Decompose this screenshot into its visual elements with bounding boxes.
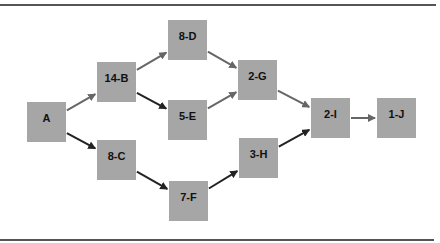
edge-g-i-arrow [278, 91, 309, 107]
edges-layer [0, 0, 440, 243]
edge-b-d-arrow [137, 53, 166, 70]
node-label: 14-B [97, 72, 136, 84]
edge-f-h-arrow [209, 171, 237, 188]
node-label: 8-C [97, 150, 136, 162]
node-label: 3-H [239, 148, 278, 160]
node-d: 8-D [168, 20, 207, 60]
node-label: 2-G [238, 70, 277, 82]
node-b: 14-B [97, 62, 136, 102]
node-label: 8-D [168, 30, 207, 42]
node-label: 7-F [169, 191, 208, 203]
edge-c-f-arrow [137, 172, 167, 189]
node-f: 7-F [169, 181, 208, 221]
node-label: A [27, 112, 66, 124]
node-g: 2-G [238, 60, 277, 100]
edge-h-i-arrow [279, 130, 309, 147]
node-a: A [27, 102, 66, 142]
edge-a-c-arrow [67, 133, 95, 148]
edge-e-g-arrow [208, 92, 236, 108]
node-label: 5-E [168, 110, 207, 122]
node-i: 2-I [311, 98, 350, 138]
node-e: 5-E [168, 100, 207, 140]
edge-a-b-arrow [67, 94, 95, 110]
node-c: 8-C [97, 140, 136, 180]
edge-d-g-arrow [208, 52, 236, 68]
node-label: 2-I [311, 108, 350, 120]
node-label: 1-J [377, 108, 416, 120]
node-j: 1-J [377, 98, 416, 138]
node-h: 3-H [239, 138, 278, 178]
edge-b-e-arrow [137, 93, 166, 109]
